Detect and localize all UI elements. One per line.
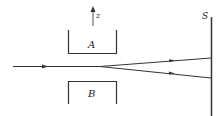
diagram-canvas: z A B S: [0, 0, 221, 116]
screen-label: S: [202, 11, 208, 21]
magnet-b-label: B: [87, 88, 95, 99]
z-axis-arrow: [91, 6, 96, 26]
lower-beam: [100, 67, 211, 79]
beam-direction-arrow-icon: [42, 65, 48, 69]
z-axis-label: z: [95, 11, 101, 20]
upper-beam: [100, 58, 211, 67]
incoming-beam: [13, 65, 100, 69]
magnet-a-label: A: [87, 39, 95, 50]
